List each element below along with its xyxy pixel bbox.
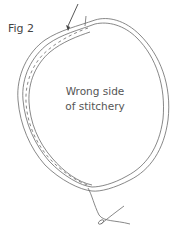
center-caption-line-2: of stitchery bbox=[55, 99, 135, 114]
center-caption: Wrong side of stitchery bbox=[55, 84, 135, 114]
figure-label: Fig 2 bbox=[8, 22, 34, 35]
center-caption-line-1: Wrong side bbox=[55, 84, 135, 99]
thread-icon bbox=[88, 188, 130, 225]
needle-icon bbox=[66, 4, 78, 31]
thread-end-top bbox=[85, 16, 86, 26]
